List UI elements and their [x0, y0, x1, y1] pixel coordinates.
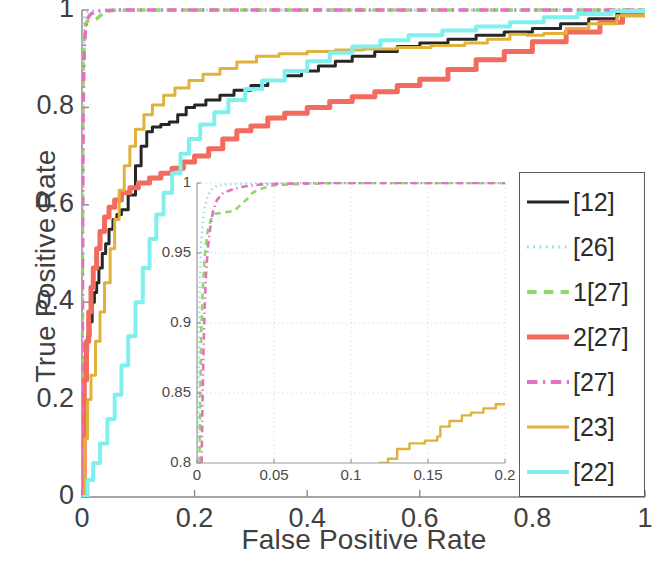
legend-label: [27] — [573, 370, 615, 395]
x-tick-1: 0.2 — [155, 503, 235, 534]
inset-x-tick-1: 0.05 — [244, 466, 304, 483]
legend-label: [12] — [573, 190, 615, 215]
legend-line-swatch-icon — [526, 464, 570, 480]
y-tick-0: 0 — [0, 480, 74, 511]
inset-x-tick-3: 0.15 — [398, 466, 458, 483]
legend-label: 2[27] — [573, 325, 629, 350]
x-tick-2: 0.4 — [267, 503, 347, 534]
inset-y-tick-1: 0.85 — [147, 383, 191, 400]
legend-entry-127[interactable]: 1[27] — [520, 269, 646, 315]
legend-line-swatch-icon — [526, 419, 570, 435]
legend-line-swatch-icon — [526, 194, 570, 210]
inset-y-tick-3: 0.95 — [147, 243, 191, 260]
legend-label: 1[27] — [573, 280, 629, 305]
legend-entry-26[interactable]: [26] — [520, 224, 646, 270]
legend-line-swatch-icon — [526, 284, 570, 300]
legend-line-swatch-icon — [526, 374, 570, 390]
y-axis-label: True Positive Rate — [30, 116, 62, 416]
legend-entry-23[interactable]: [23] — [520, 404, 646, 450]
y-tick-5: 1 — [0, 0, 74, 24]
x-tick-3: 0.6 — [380, 503, 460, 534]
inset-y-tick-4: 1 — [147, 173, 191, 190]
legend-entry-227[interactable]: 2[27] — [520, 314, 646, 360]
legend-line-swatch-icon — [526, 329, 570, 345]
legend-label: [23] — [573, 415, 615, 440]
inset-x-tick-2: 0.1 — [321, 466, 381, 483]
roc-figure: True Positive Rate False Positive Rate 0… — [0, 0, 660, 576]
inset-y-tick-0: 0.8 — [147, 453, 191, 470]
legend-line-swatch-icon — [526, 239, 570, 255]
legend-label: [22] — [573, 460, 615, 485]
x-tick-4: 0.8 — [492, 503, 572, 534]
y-tick-3: 0.6 — [0, 188, 74, 219]
legend-entry-12[interactable]: [12] — [520, 179, 646, 225]
legend: [12][26]1[27]2[27][27][23][22] — [519, 172, 645, 497]
y-tick-1: 0.2 — [0, 383, 74, 414]
inset-y-tick-2: 0.9 — [147, 313, 191, 330]
legend-label: [26] — [573, 235, 615, 260]
x-tick-5: 1 — [605, 503, 660, 534]
y-tick-2: 0.4 — [0, 285, 74, 316]
legend-entry-22[interactable]: [22] — [520, 449, 646, 495]
y-tick-4: 0.8 — [0, 90, 74, 121]
legend-entry-27[interactable]: [27] — [520, 359, 646, 405]
